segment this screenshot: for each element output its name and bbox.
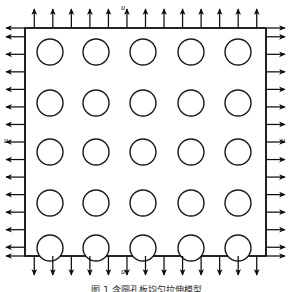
hole — [225, 39, 251, 65]
load-label-left: u — [4, 137, 8, 145]
hole — [130, 190, 156, 216]
plate-load-diagram — [0, 0, 293, 292]
load-label-top: u — [121, 4, 125, 12]
hole — [83, 39, 109, 65]
figure-container: u u u u 图 1 含圆孔板均匀拉伸模型 — [0, 0, 293, 292]
hole — [83, 235, 109, 261]
hole — [37, 190, 63, 216]
load-label-bottom: u — [121, 268, 125, 276]
hole — [178, 190, 204, 216]
hole — [178, 39, 204, 65]
hole — [130, 39, 156, 65]
hole — [83, 90, 109, 116]
hole — [37, 90, 63, 116]
hole — [83, 190, 109, 216]
hole — [130, 235, 156, 261]
hole — [130, 90, 156, 116]
figure-caption: 图 1 含圆孔板均匀拉伸模型 — [0, 285, 293, 292]
hole — [225, 139, 251, 165]
hole — [178, 90, 204, 116]
load-label-right: u — [281, 137, 285, 145]
hole — [37, 39, 63, 65]
hole — [178, 235, 204, 261]
hole — [83, 139, 109, 165]
hole — [225, 90, 251, 116]
hole — [178, 139, 204, 165]
hole — [225, 190, 251, 216]
hole — [130, 139, 156, 165]
hole — [37, 235, 63, 261]
hole — [37, 139, 63, 165]
